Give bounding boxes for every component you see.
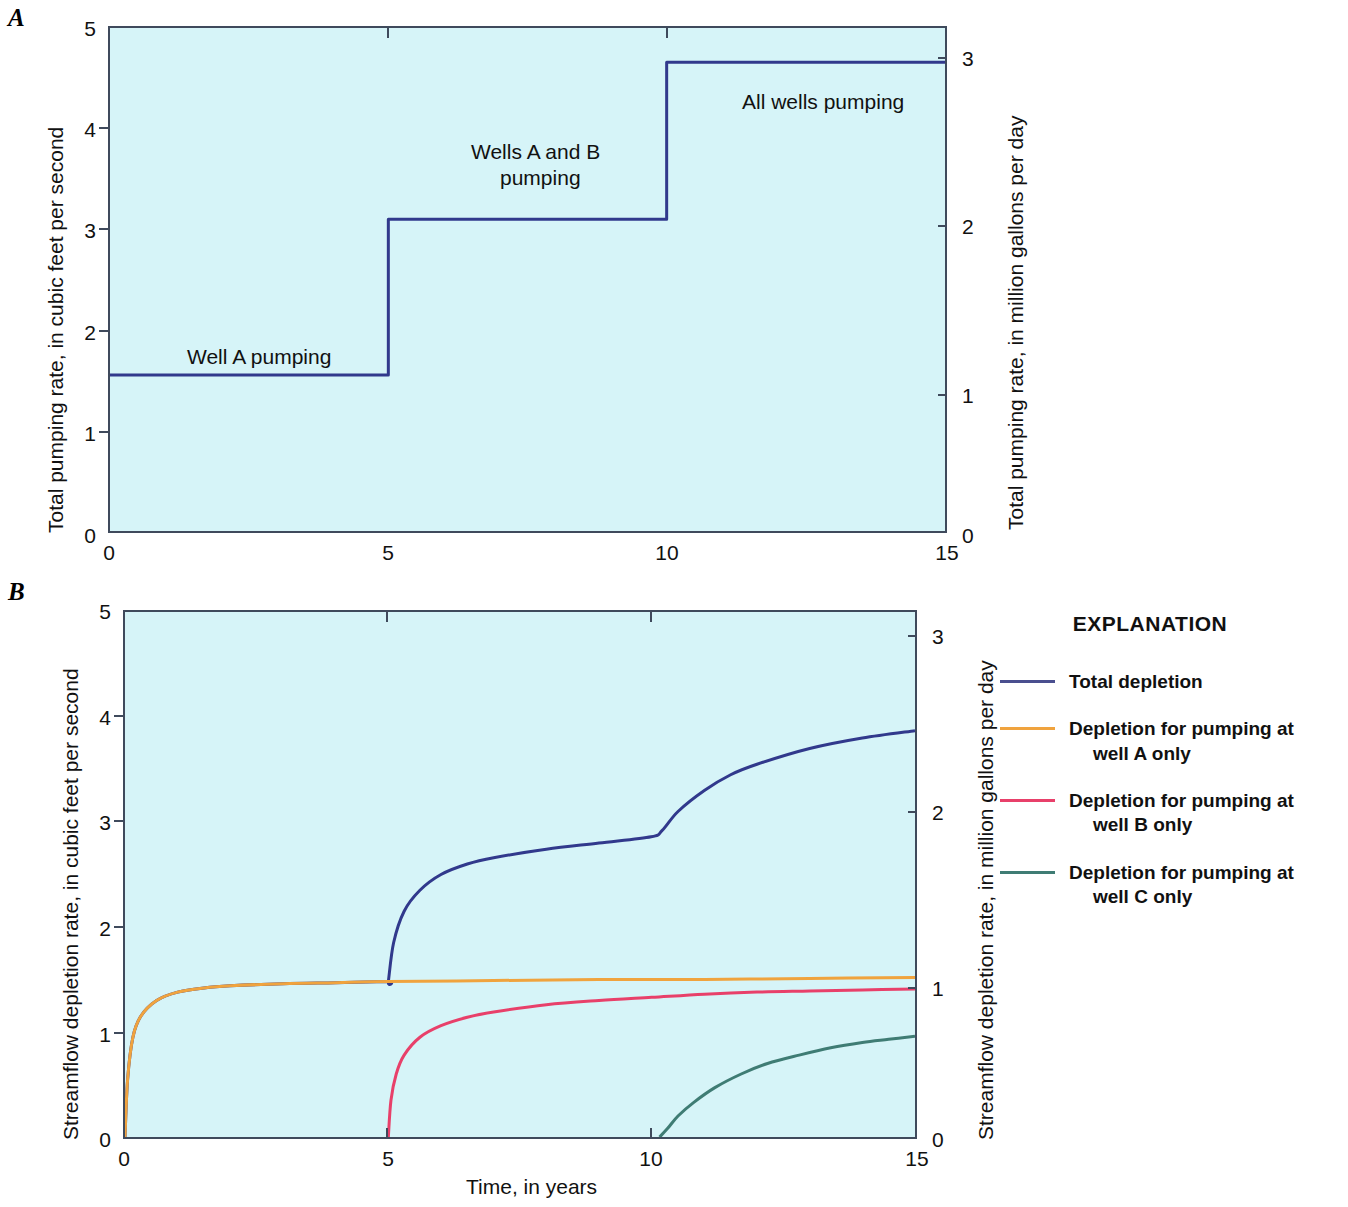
x-axis-title: Time, in years xyxy=(466,1176,597,1197)
legend-label-well-a: Depletion for pumping at well A only xyxy=(1069,717,1294,766)
panel-a-xtick-15: 15 xyxy=(930,542,964,563)
panel-b-ytick-right-2: 2 xyxy=(932,802,966,823)
panel-a-letter: A xyxy=(8,4,25,32)
legend-title: EXPLANATION xyxy=(1000,612,1300,636)
panel-a-ytickmark-4 xyxy=(99,127,108,129)
legend: EXPLANATION Total depletion Depletion fo… xyxy=(1000,612,1330,932)
panel-b-ytickmark-1 xyxy=(114,1032,123,1034)
legend-label-line1: Depletion for pumping at xyxy=(1069,718,1294,739)
legend-item-well-a: Depletion for pumping at well A only xyxy=(1000,717,1330,766)
panel-b-ytick-right-0: 0 xyxy=(932,1129,966,1150)
annotation-all-wells-pumping: All wells pumping xyxy=(742,89,904,115)
panel-b-ytick-1: 1 xyxy=(77,1024,111,1045)
panel-b-ytickmark-4 xyxy=(114,715,123,717)
legend-label-line1: Total depletion xyxy=(1069,671,1203,692)
panel-b-ytickmark-right-1 xyxy=(908,987,917,989)
panel-a-ytickmark-right-3 xyxy=(938,57,947,59)
panel-a-ytick-4: 4 xyxy=(62,119,96,140)
panel-a-ytickmark-1 xyxy=(99,431,108,433)
panel-a-xtickmark-top-10 xyxy=(666,28,668,38)
panel-a-ytickmark-2 xyxy=(99,330,108,332)
panel-a-ytick-5: 5 xyxy=(62,18,96,39)
legend-label-line2: well B only xyxy=(1069,813,1294,837)
panel-b-left-axis-title: Streamflow depletion rate, in cubic feet… xyxy=(60,668,81,1140)
legend-swatch-well-b xyxy=(1000,799,1055,802)
legend-label-well-c: Depletion for pumping at well C only xyxy=(1069,861,1294,910)
series-depletion-for-pumping-at-well-c-only xyxy=(660,1036,915,1137)
legend-item-well-b: Depletion for pumping at well B only xyxy=(1000,789,1330,838)
panel-b-xtick-5: 5 xyxy=(371,1148,405,1169)
annotation-wells-ab-pumping-line2: pumping xyxy=(500,165,581,191)
panel-a-ytick-3: 3 xyxy=(62,220,96,241)
panel-a-xtickmark-top-5 xyxy=(387,28,389,38)
panel-a-right-axis-title: Total pumping rate, in million gallons p… xyxy=(1005,116,1026,530)
panel-b-curves xyxy=(125,612,915,1137)
legend-swatch-well-a xyxy=(1000,727,1055,730)
panel-b-xtickmark-5 xyxy=(386,1128,388,1138)
panel-b-xtick-0: 0 xyxy=(107,1148,141,1169)
annotation-wells-ab-pumping-line1: Wells A and B xyxy=(471,139,600,165)
legend-label-line1: Depletion for pumping at xyxy=(1069,790,1294,811)
panel-b-right-axis-title: Streamflow depletion rate, in million ga… xyxy=(975,660,996,1140)
panel-b-xtickmark-top-10 xyxy=(650,612,652,622)
panel-a-ytickmark-right-2 xyxy=(938,225,947,227)
panel-b-ytick-3: 3 xyxy=(77,812,111,833)
panel-a-ytick-right-2: 2 xyxy=(962,216,996,237)
legend-item-well-c: Depletion for pumping at well C only xyxy=(1000,861,1330,910)
panel-b-ytickmark-right-3 xyxy=(908,635,917,637)
legend-swatch-well-c xyxy=(1000,871,1055,874)
panel-b-ytickmark-2 xyxy=(114,926,123,928)
panel-b-xtick-10: 10 xyxy=(634,1148,668,1169)
panel-a-ytick-1: 1 xyxy=(62,423,96,444)
legend-item-total-depletion: Total depletion xyxy=(1000,670,1330,694)
panel-a-ytickmark-3 xyxy=(99,228,108,230)
annotation-well-a-pumping: Well A pumping xyxy=(187,344,331,370)
panel-a-ytickmark-right-1 xyxy=(938,394,947,396)
legend-label-total-depletion: Total depletion xyxy=(1069,670,1203,694)
panel-a-xtick-10: 10 xyxy=(650,542,684,563)
panel-b-xtick-15: 15 xyxy=(900,1148,934,1169)
panel-b-ytick-right-1: 1 xyxy=(932,978,966,999)
legend-label-line1: Depletion for pumping at xyxy=(1069,862,1294,883)
panel-a-ytick-0: 0 xyxy=(62,525,96,546)
panel-a-xtick-0: 0 xyxy=(92,542,126,563)
panel-b-plot-area xyxy=(123,610,917,1139)
panel-a-ytick-right-3: 3 xyxy=(962,48,996,69)
panel-b-letter: B xyxy=(8,578,25,606)
panel-b-xtickmark-top-5 xyxy=(386,612,388,622)
legend-label-well-b: Depletion for pumping at well B only xyxy=(1069,789,1294,838)
panel-b-ytick-2: 2 xyxy=(77,918,111,939)
panel-a-ytick-right-1: 1 xyxy=(962,385,996,406)
series-total-depletion xyxy=(125,731,915,1137)
legend-label-line2: well A only xyxy=(1069,742,1294,766)
panel-b-ytick-right-3: 3 xyxy=(932,626,966,647)
panel-b-ytick-0: 0 xyxy=(77,1129,111,1150)
legend-swatch-total-depletion xyxy=(1000,680,1055,683)
panel-a-left-axis-title: Total pumping rate, in cubic feet per se… xyxy=(45,127,66,533)
figure-root: A 5 4 3 2 1 0 3 2 1 0 0 5 10 15 Total pu… xyxy=(0,0,1348,1207)
panel-a-ytick-right-0: 0 xyxy=(962,525,996,546)
panel-b-ytickmark-right-2 xyxy=(908,811,917,813)
panel-b-ytickmark-3 xyxy=(114,820,123,822)
panel-b-ytick-4: 4 xyxy=(77,707,111,728)
panel-a-ytick-2: 2 xyxy=(62,322,96,343)
panel-b-xtickmark-10 xyxy=(650,1128,652,1138)
panel-b-ytick-5: 5 xyxy=(77,601,111,622)
series-depletion-for-pumping-at-well-b-only xyxy=(388,989,915,1137)
panel-a-xtick-5: 5 xyxy=(371,542,405,563)
legend-label-line2: well C only xyxy=(1069,885,1294,909)
